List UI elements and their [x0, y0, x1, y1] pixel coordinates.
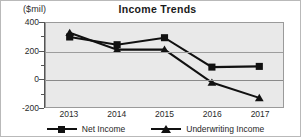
y-tick-mark: [39, 108, 44, 109]
x-tick-label: 2017: [251, 109, 270, 119]
plot-svg: [46, 23, 283, 107]
legend-item[interactable]: Net Income: [47, 124, 125, 134]
chart-title: Income Trends: [1, 3, 300, 15]
data-point-marker: [66, 33, 73, 40]
legend-item[interactable]: Underwriting Income: [151, 124, 264, 134]
chart-container: ($mil) Income Trends 4002000-200 2013201…: [0, 0, 301, 137]
legend-triangle-marker-icon: [151, 125, 181, 134]
y-tick-mark-minor: [41, 36, 44, 37]
y-tick-label: 400: [3, 17, 39, 27]
x-tick-label: 2016: [203, 109, 222, 119]
chart-legend: Net IncomeUnderwriting Income: [1, 122, 300, 136]
x-axis-labels: 20132014201520162017: [45, 109, 284, 121]
zero-line: [46, 80, 283, 81]
x-tick-label: 2015: [155, 109, 174, 119]
legend-square-marker-icon: [47, 125, 77, 134]
x-tick-label: 2013: [59, 109, 78, 119]
data-point-marker: [208, 64, 215, 71]
gridline: [46, 52, 283, 53]
y-tick-label: 0: [3, 74, 39, 84]
plot-area: [45, 22, 284, 108]
y-tick-mark: [39, 51, 44, 52]
legend-label: Underwriting Income: [186, 124, 264, 134]
legend-label: Net Income: [82, 124, 125, 134]
y-tick-mark-minor: [41, 94, 44, 95]
y-tick-mark: [39, 22, 44, 23]
data-point-marker: [256, 63, 263, 70]
y-tick-label: 200: [3, 46, 39, 56]
y-tick-mark-minor: [41, 65, 44, 66]
y-tick-mark: [39, 79, 44, 80]
y-axis-labels: 4002000-200: [1, 1, 39, 137]
data-point-marker: [114, 41, 121, 48]
data-point-marker: [161, 34, 168, 41]
x-tick-label: 2014: [107, 109, 126, 119]
y-tick-label: -200: [3, 103, 39, 113]
